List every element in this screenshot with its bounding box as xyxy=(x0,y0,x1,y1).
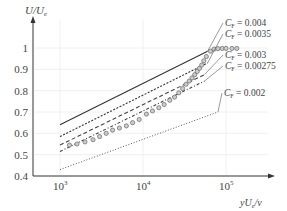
x-tick-labels: 103104105 xyxy=(53,179,234,192)
data-point-marker xyxy=(216,47,220,51)
cf-line xyxy=(60,51,208,125)
data-point-marker xyxy=(98,134,102,138)
x-tick-label: 104 xyxy=(136,179,151,192)
data-point-marker xyxy=(110,128,114,132)
cf-line xyxy=(60,75,204,145)
data-point-marker xyxy=(104,131,108,135)
data-point-marker xyxy=(177,91,181,95)
data-point-marker xyxy=(202,59,206,63)
chart-svg: 0.40.50.60.70.80.91 103104105 U/Ue yUe/ν… xyxy=(0,0,287,211)
data-point-marker xyxy=(91,138,95,142)
y-tick-label: 0.7 xyxy=(14,106,28,118)
y-tick-label: 0.6 xyxy=(14,127,28,139)
data-point-marker xyxy=(150,109,154,113)
data-point-marker xyxy=(137,117,141,121)
legend-label: CF = 0.0035 xyxy=(225,29,271,40)
legend: CF = 0.004CF = 0.0035CF = 0.003CF = 0.00… xyxy=(204,18,275,112)
data-point-marker xyxy=(162,102,166,106)
legend-label: CF = 0.00275 xyxy=(225,61,276,72)
y-tick-label: 0.5 xyxy=(14,149,28,161)
data-point-marker xyxy=(75,142,79,146)
y-axis-arrow-icon xyxy=(31,16,36,23)
legend-label: CF = 0.004 xyxy=(225,18,266,29)
legend-label: CF = 0.002 xyxy=(224,88,265,99)
y-tick-labels: 0.40.50.60.70.80.91 xyxy=(14,42,28,182)
x-tick-label: 103 xyxy=(53,179,68,192)
y-axis-label: U/Ue xyxy=(25,4,47,18)
data-markers xyxy=(67,46,239,147)
y-tick-label: 0.9 xyxy=(14,63,28,75)
legend-label: CF = 0.003 xyxy=(225,50,266,61)
data-point-marker xyxy=(181,86,185,90)
x-axis-label: yUe/ν xyxy=(239,197,262,209)
data-point-marker xyxy=(168,98,172,102)
x-tick-label: 105 xyxy=(219,179,234,192)
data-point-marker xyxy=(204,54,208,58)
data-point-marker xyxy=(124,124,128,128)
legend-leader-line xyxy=(204,66,223,81)
data-point-marker xyxy=(200,63,204,67)
data-point-marker xyxy=(157,106,161,110)
y-tick-label: 1 xyxy=(23,42,29,54)
data-point-marker xyxy=(83,140,87,144)
data-point-marker xyxy=(144,112,148,116)
y-tick-label: 0.8 xyxy=(14,85,28,97)
chart-container: 0.40.50.60.70.80.91 103104105 U/Ue yUe/ν… xyxy=(0,0,287,211)
data-point-marker xyxy=(117,126,121,130)
legend-leader-line xyxy=(218,93,222,112)
data-point-marker xyxy=(67,143,71,147)
cf-line xyxy=(60,63,208,137)
cf-line xyxy=(60,81,204,151)
data-point-marker xyxy=(172,95,176,99)
data-point-marker xyxy=(131,121,135,125)
y-tick-label: 0.4 xyxy=(14,170,28,182)
x-axis-arrow-icon xyxy=(268,174,275,179)
